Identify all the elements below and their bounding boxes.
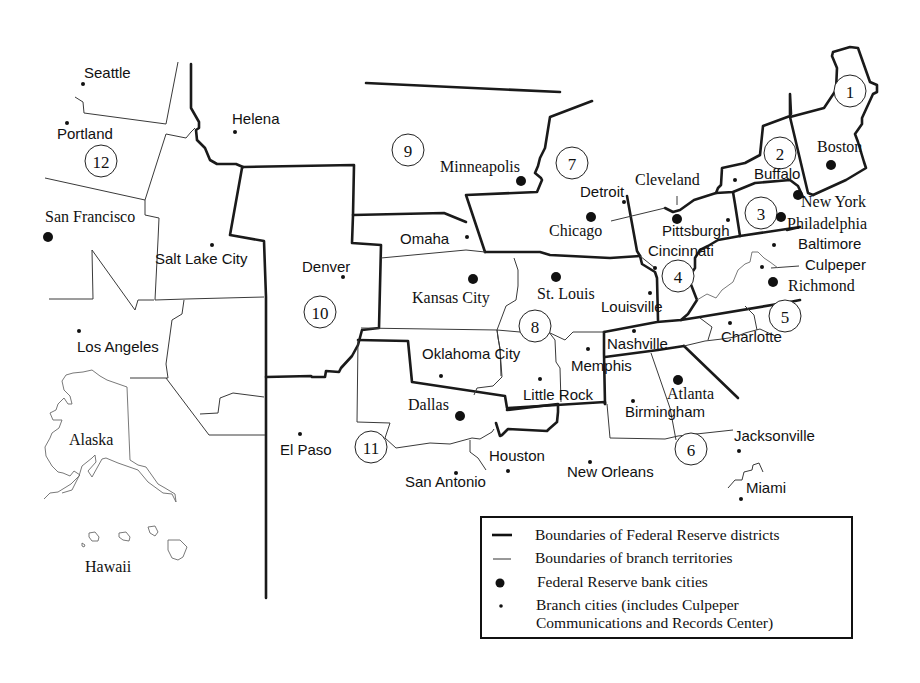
branch-city-label: Little Rock [523, 386, 594, 403]
branch-city-label: Los Angeles [77, 338, 159, 355]
branch-city-dot-icon [233, 130, 237, 134]
branch-city-dot-icon [341, 275, 345, 279]
district-4-marker: 4 [662, 260, 694, 292]
bank-city-label: San Francisco [45, 208, 135, 225]
bank-city-dot-icon [586, 212, 596, 222]
region-label-hawaii: Hawaii [85, 558, 132, 575]
branch-city-oklahoma-city: Oklahoma City [422, 345, 521, 378]
bank-city-atlanta: Atlanta [667, 375, 714, 402]
bank-city-boston: Boston [817, 138, 862, 170]
district-number: 11 [363, 439, 379, 458]
district-8-marker: 8 [519, 310, 551, 342]
bank-city-label: Kansas City [412, 289, 490, 307]
branch-city-dot-icon [772, 243, 776, 247]
branch-city-label: Charlotte [721, 328, 782, 345]
branch-city-nashville: Nashville [607, 329, 668, 352]
branch-city-label: Omaha [400, 230, 450, 247]
branch-city-louisville: Louisville [601, 291, 663, 315]
branch-city-jacksonville: Jacksonville [734, 427, 815, 453]
bank-city-dot-icon [468, 274, 478, 284]
branch-city-pittsburgh: Pittsburgh [662, 218, 730, 239]
district-number: 1 [846, 83, 855, 102]
district-number: 4 [674, 268, 683, 287]
branch-city-dot-icon [298, 432, 302, 436]
branch-city-label: Baltimore [798, 235, 861, 252]
branch-city-label: Memphis [571, 357, 632, 374]
bank-city-san-francisco: San Francisco [43, 208, 135, 242]
district-number: 8 [531, 318, 540, 337]
branch-city-label: New Orleans [567, 463, 654, 480]
bank-city-cleveland: Cleveland [635, 171, 700, 224]
branch-city-label: Buffalo [754, 165, 800, 182]
district-number-markers: 123456789101112 [85, 75, 866, 465]
branch-city-dot-icon [733, 178, 737, 182]
district-3-marker: 3 [745, 197, 777, 229]
region-label-alaska: Alaska [69, 431, 113, 448]
district-12-marker: 12 [85, 145, 117, 177]
district-11-marker: 11 [355, 431, 387, 463]
bank-city-label: Chicago [549, 222, 602, 240]
branch-city-label: San Antonio [405, 473, 486, 490]
branch-city-salt-lake-city: Salt Lake City [155, 243, 248, 267]
district-number: 7 [568, 155, 577, 174]
branch-city-dot-icon [77, 329, 81, 333]
legend-large-dot-icon [496, 579, 505, 588]
branch-city-miami: Miami [739, 479, 786, 501]
branch-city-markers: SeattlePortlandHelenaSalt Lake CityLos A… [57, 64, 866, 501]
branch-city-label: Miami [746, 479, 786, 496]
district-number: 2 [776, 145, 785, 164]
branch-city-dot-icon [622, 200, 626, 204]
bank-city-label: New York [801, 193, 866, 210]
branch-city-dot-icon [648, 291, 652, 295]
bank-city-label: Atlanta [667, 385, 714, 402]
bank-city-dot-icon [826, 160, 836, 170]
branch-city-dot-icon [739, 497, 743, 501]
branch-city-detroit: Detroit [580, 183, 626, 204]
bank-city-label: Dallas [408, 396, 449, 413]
bank-city-dot-icon [768, 277, 778, 287]
branch-city-seattle: Seattle [81, 64, 131, 86]
legend-label-branch-cities-line2: Communications and Records Center) [536, 614, 773, 632]
branch-city-houston: Houston [489, 447, 545, 473]
branch-city-label: Seattle [84, 64, 131, 81]
branch-city-label: Portland [57, 125, 113, 142]
district-number: 9 [404, 142, 413, 161]
branch-city-dot-icon [760, 265, 764, 269]
bank-city-kansas-city: Kansas City [412, 274, 490, 307]
branch-city-label: Jacksonville [734, 427, 815, 444]
bank-city-new-york: New York [793, 190, 866, 210]
branch-city-baltimore: Baltimore [772, 235, 861, 252]
branch-city-label: Nashville [607, 335, 668, 352]
bank-city-label: St. Louis [537, 285, 595, 302]
district-number: 6 [687, 441, 696, 460]
bank-city-st-louis: St. Louis [537, 272, 595, 302]
region-labels: AlaskaHawaii [69, 431, 132, 575]
district-number: 10 [312, 304, 329, 323]
bank-city-label: Philadelphia [787, 215, 867, 233]
branch-city-dot-icon [653, 266, 657, 270]
branch-city-dot-icon [439, 374, 443, 378]
branch-city-label: Birmingham [625, 403, 705, 420]
district-number: 12 [93, 153, 110, 172]
branch-city-dot-icon [465, 235, 469, 239]
bank-city-dot-icon [551, 272, 561, 282]
bank-city-dot-icon [455, 411, 465, 421]
district-6-marker: 6 [675, 433, 707, 465]
branch-city-label: Salt Lake City [155, 250, 248, 267]
bank-city-dot-icon [673, 375, 683, 385]
branch-city-label: Louisville [601, 298, 663, 315]
legend: Boundaries of Federal Reserve districts … [481, 517, 852, 638]
bank-city-richmond: Richmond [768, 277, 855, 294]
branch-city-birmingham: Birmingham [625, 399, 705, 420]
district-number: 5 [781, 308, 790, 327]
district-10-marker: 10 [304, 296, 336, 328]
branch-city-little-rock: Little Rock [523, 377, 594, 403]
branch-city-dot-icon [506, 469, 510, 473]
branch-city-helena: Helena [232, 110, 280, 134]
bank-city-dot-icon [776, 212, 786, 222]
branch-city-label: Helena [232, 110, 280, 127]
branch-city-label: El Paso [280, 441, 332, 458]
branch-city-label: Oklahoma City [422, 345, 521, 362]
bank-city-dallas: Dallas [408, 396, 465, 421]
branch-city-omaha: Omaha [400, 230, 469, 247]
